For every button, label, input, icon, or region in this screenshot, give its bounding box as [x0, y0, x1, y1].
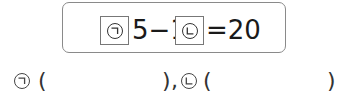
- answer-1-field[interactable]: [50, 68, 160, 94]
- answer-1-open-paren: (: [38, 68, 47, 94]
- answer-2-field[interactable]: [215, 68, 325, 94]
- answer-1-close-paren: ): [162, 68, 171, 94]
- answer-2-open-paren: (: [203, 68, 212, 94]
- answer-2-close-paren: ): [327, 68, 336, 94]
- separator-comma: ,: [171, 68, 178, 94]
- answer-row: ( ) , ( ): [0, 68, 346, 94]
- blank-box-2[interactable]: [175, 16, 204, 45]
- nieun-circle-icon: [182, 23, 198, 39]
- equation-box: 5−1 =20: [62, 2, 286, 53]
- equation-part-2: =20: [206, 13, 261, 47]
- blank-box-1[interactable]: [100, 16, 129, 45]
- nieun-circle-icon: [181, 73, 197, 89]
- giyeok-circle-icon: [107, 23, 123, 39]
- giyeok-circle-icon: [14, 73, 30, 89]
